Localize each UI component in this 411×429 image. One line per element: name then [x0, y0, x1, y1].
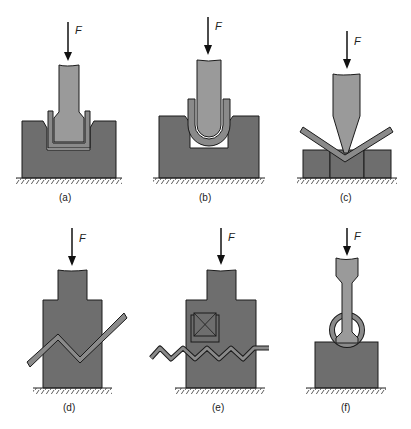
- punch-a: [54, 65, 84, 142]
- die-d: [43, 270, 102, 388]
- force-arrow-icon: [343, 31, 351, 69]
- ground-hatch: [297, 178, 397, 184]
- force-label-b: F: [215, 20, 223, 32]
- die-left-c: [303, 150, 330, 178]
- force-arrow-icon: [64, 22, 72, 61]
- label-d: (d): [63, 402, 75, 413]
- force-label-c: F: [354, 35, 362, 47]
- punch-c: [333, 74, 360, 153]
- panel-a: F (a): [16, 22, 122, 203]
- ground-hatch: [175, 388, 265, 394]
- punch-f: [336, 258, 358, 343]
- force-arrow-icon: [204, 17, 212, 55]
- panel-c: F (c): [297, 31, 397, 203]
- force-arrow-icon: [217, 228, 225, 265]
- ground-hatch: [306, 388, 386, 394]
- ground-hatch: [153, 178, 265, 184]
- ground-hatch: [16, 178, 122, 184]
- panel-e: F (e): [151, 228, 269, 413]
- label-e: (e): [212, 402, 224, 413]
- force-label-a: F: [75, 24, 83, 36]
- die-right-c: [364, 150, 391, 178]
- panel-f: F (f): [306, 228, 386, 413]
- label-c: (c): [340, 192, 352, 203]
- force-label-f: F: [354, 230, 362, 242]
- label-a: (a): [59, 192, 71, 203]
- panel-d: F (d): [27, 228, 127, 413]
- force-label-e: F: [228, 231, 236, 243]
- spring-box-icon: [194, 313, 216, 336]
- force-arrow-icon: [68, 228, 76, 266]
- label-f: (f): [341, 402, 350, 413]
- die-f: [315, 342, 378, 388]
- punch-b: [197, 60, 221, 137]
- force-label-d: F: [79, 232, 87, 244]
- ground-hatch: [33, 388, 112, 394]
- label-b: (b): [199, 192, 211, 203]
- panel-b: F (b): [153, 17, 265, 203]
- force-arrow-icon: [343, 228, 351, 256]
- bending-operations-diagram: F (a) F (b) F (c): [0, 0, 411, 429]
